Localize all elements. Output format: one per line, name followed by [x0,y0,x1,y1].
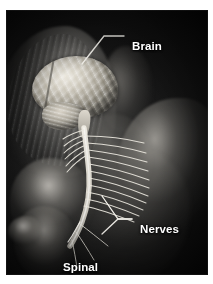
label-spinal-cord-line1: Spinal [63,261,98,274]
leader-line-nerves [102,196,132,234]
figure-root: Brain Nerves Spinal cord [0,0,213,284]
thoracic-nerve-roots [84,136,149,222]
anatomical-photograph: Brain Nerves Spinal cord [6,10,208,275]
leader-line-brain [82,36,124,64]
label-spinal-cord: Spinal cord [63,236,98,275]
label-brain: Brain [132,40,162,53]
label-nerves: Nerves [140,223,179,236]
